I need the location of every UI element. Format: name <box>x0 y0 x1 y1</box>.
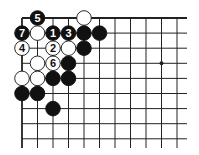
white-stone-move-2: 2 <box>46 41 61 56</box>
black-stone <box>30 86 45 101</box>
move-number-label: 4 <box>19 42 26 54</box>
move-number-label: 2 <box>50 42 56 54</box>
white-stone <box>61 41 76 56</box>
black-stone <box>92 26 107 41</box>
black-stone-move-1: 1 <box>46 26 61 41</box>
black-stone <box>61 71 76 86</box>
white-stone <box>30 71 45 86</box>
star-points <box>160 61 164 65</box>
white-stone <box>30 56 45 71</box>
black-stone <box>15 86 30 101</box>
move-number-label: 6 <box>50 57 56 69</box>
white-stone <box>77 11 92 26</box>
black-stone-move-3: 3 <box>61 26 76 41</box>
black-stone <box>77 41 92 56</box>
black-stone <box>46 71 61 86</box>
move-number-label: 5 <box>34 12 40 24</box>
black-stone-move-7: 7 <box>15 26 30 41</box>
white-stone-move-4: 4 <box>15 41 30 56</box>
white-stone <box>15 71 30 86</box>
black-stone-move-5: 5 <box>30 11 45 26</box>
white-stone-move-6: 6 <box>46 56 61 71</box>
move-number-label: 1 <box>50 27 56 39</box>
white-stone <box>30 26 45 41</box>
move-number-label: 3 <box>65 27 71 39</box>
black-stone <box>77 26 92 41</box>
black-stone <box>61 56 76 71</box>
star-point <box>160 61 164 65</box>
black-stone <box>46 101 61 116</box>
move-number-label: 7 <box>19 27 25 39</box>
go-board-diagram: 5713426 <box>0 0 199 155</box>
